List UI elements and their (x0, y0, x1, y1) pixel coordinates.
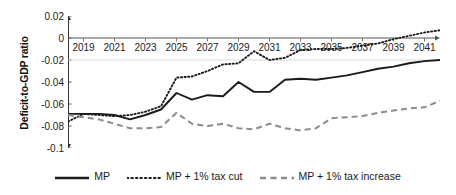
y-axis-tick-label: -0.1 (20, 143, 64, 154)
legend-label-2: MP + 1% tax increase (299, 170, 401, 182)
legend-item-2[interactable]: MP + 1% tax increase (260, 170, 401, 182)
y-axis-tick-labels: 0.020-0.02-0.04-0.06-0.08-0.1 (18, 0, 64, 195)
x-axis-arrow (435, 36, 440, 41)
y-axis-arrow-bottom (68, 144, 71, 148)
legend-item-0[interactable]: MP (55, 170, 110, 182)
legend-label-1: MP + 1% tax cut (166, 170, 243, 182)
plot-area (68, 16, 440, 148)
legend-swatch-solid-icon (55, 172, 89, 180)
y-axis-tick-label: -0.02 (20, 55, 64, 66)
series-line-1 (68, 30, 440, 121)
y-axis-tick-label: -0.04 (20, 77, 64, 88)
legend-label-0: MP (94, 170, 110, 182)
series-line-0 (68, 60, 440, 119)
chart-legend: MPMP + 1% tax cutMP + 1% tax increase (0, 170, 456, 182)
y-axis-tick-label: -0.08 (20, 121, 64, 132)
chart-container: Deficit-to-GDP ratio 0.020-0.02-0.04-0.0… (0, 0, 456, 195)
y-axis-tick-label: 0.02 (20, 11, 64, 22)
y-axis-tick-label: -0.06 (20, 99, 64, 110)
chart-svg (68, 16, 440, 148)
legend-swatch-dotted-icon (127, 172, 161, 180)
legend-item-1[interactable]: MP + 1% tax cut (127, 170, 243, 182)
legend-swatch-dashed-icon (260, 172, 294, 180)
y-axis-arrow-top (68, 16, 71, 20)
